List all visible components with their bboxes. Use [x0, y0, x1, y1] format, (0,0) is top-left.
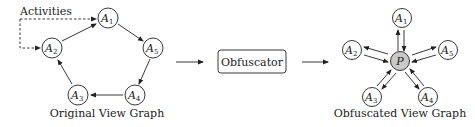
node-a5: A5: [439, 41, 458, 60]
activities-label: Activities: [19, 5, 72, 18]
obfuscated-graph-caption: Obfuscated View Graph: [334, 107, 466, 120]
edge-a3-p: [377, 70, 391, 86]
edge-a1-a5: [118, 24, 143, 41]
view-graph-diagram: Activities A1 A2 A3 A4 A5 Or: [0, 0, 475, 127]
activity-dashed-arrow-to-a2: [20, 19, 40, 48]
original-view-graph: Activities A1 A2 A3 A4 A5 Or: [19, 5, 164, 120]
node-a4: A4: [419, 88, 438, 107]
edge-p-a5: [412, 47, 436, 55]
node-a3: A3: [68, 85, 88, 105]
node-a1: A1: [98, 8, 118, 28]
edge-p-a4: [405, 72, 419, 89]
original-graph-caption: Original View Graph: [50, 107, 164, 120]
node-a5: A5: [143, 38, 163, 58]
node-p: P: [391, 52, 410, 71]
node-a2: A2: [343, 41, 362, 60]
obfuscated-view-graph: P A1 A2 A3 A4 A5 Obfuscated View Graph: [334, 9, 466, 121]
node-a4: A4: [125, 85, 145, 105]
edge-a2-p: [364, 55, 388, 62]
node-a2: A2: [42, 38, 62, 58]
edge-p-a2: [364, 47, 388, 54]
obfuscator-box: Obfuscator: [218, 50, 286, 73]
edge-p-a3: [382, 73, 396, 89]
edge-a5-p: [412, 55, 436, 62]
node-a1: A1: [393, 9, 412, 28]
edge-a3-a2: [58, 60, 72, 84]
node-a3: A3: [363, 88, 382, 107]
obfuscator-label: Obfuscator: [221, 56, 284, 69]
edge-a2-a1: [62, 24, 96, 41]
edge-a5-a4: [139, 59, 150, 84]
edge-a4-p: [410, 69, 424, 86]
svg-text:P: P: [395, 55, 404, 68]
